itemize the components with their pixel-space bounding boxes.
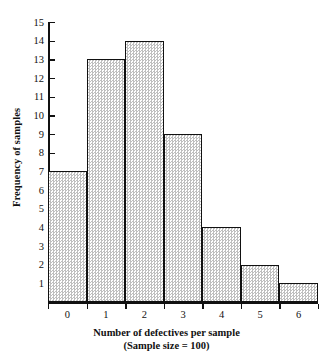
x-tick-label: 2 [142,310,147,321]
y-tick-label: 1 [39,279,44,290]
x-axis-title: Number of defectives per sample [0,326,333,339]
x-tick-mark [202,304,203,309]
x-tick-mark [318,304,319,309]
plot-area: 123456789101112131415 0123456 [48,22,318,302]
histogram-bar [87,59,126,302]
y-tick-label: 9 [39,129,44,140]
y-tick-label: 8 [39,148,44,159]
y-tick-label: 12 [34,73,45,84]
histogram-figure: Frequency of samples 1234567891011121314… [0,0,333,357]
histogram-bar [164,134,203,302]
y-tick-label: 3 [39,241,44,252]
y-tick-label: 10 [34,111,45,122]
histogram-bar [241,265,280,302]
y-tick-label: 5 [39,204,44,215]
bar-series [48,22,318,302]
x-tick-label: 3 [180,310,185,321]
histogram-bar [48,171,87,302]
histogram-bar [202,227,241,302]
x-tick-label: 1 [103,310,108,321]
x-tick-mark [48,304,49,309]
y-axis-title: Frequency of samples [11,78,22,238]
y-tick-label: 4 [39,223,44,234]
x-axis-subtitle: (Sample size = 100) [0,339,333,352]
y-tick-label: 15 [34,17,45,28]
histogram-bar [125,41,164,302]
x-tick-label: 0 [65,310,70,321]
x-tick-label: 6 [296,310,301,321]
x-tick-label: 5 [258,310,263,321]
x-tick-mark [87,304,88,309]
y-tick-label: 13 [34,55,45,66]
x-tick-mark [279,304,280,309]
x-tick-label: 4 [219,310,224,321]
x-tick-mark [125,304,126,309]
y-tick-label: 11 [34,92,44,103]
x-tick-mark [164,304,165,309]
x-axis-line [48,302,318,304]
y-tick-label: 14 [34,36,45,47]
y-tick-label: 2 [39,260,44,271]
y-tick-label: 7 [39,167,44,178]
x-tick-mark [241,304,242,309]
y-tick-label: 6 [39,185,44,196]
histogram-bar [279,283,318,302]
